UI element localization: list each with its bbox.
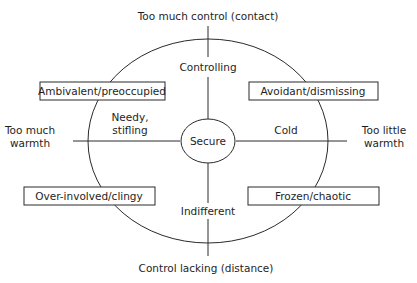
axis-left-label-line1: Too much bbox=[4, 124, 55, 136]
box-over-involved-clingy-label: Over-involved/clingy bbox=[35, 190, 143, 202]
axis-bottom-label: Control lacking (distance) bbox=[139, 262, 274, 274]
axis-right-label-line2: warmth bbox=[364, 137, 404, 149]
axis-top-label: Too much control (contact) bbox=[137, 10, 279, 22]
axis-left-label-line2: warmth bbox=[10, 137, 50, 149]
axis-right-label-line1: Too little bbox=[361, 124, 406, 136]
inner-right-label: Cold bbox=[274, 124, 297, 136]
inner-left-label-line2: stifling bbox=[112, 124, 147, 136]
box-frozen-chaotic-label: Frozen/chaotic bbox=[275, 190, 351, 202]
attachment-diagram: Secure Too much control (contact) Contro… bbox=[0, 0, 417, 283]
inner-left-label-line1: Needy, bbox=[112, 111, 149, 123]
inner-top-label: Controlling bbox=[179, 61, 236, 73]
box-avoidant-dismissing-label: Avoidant/dismissing bbox=[261, 85, 366, 97]
center-label: Secure bbox=[190, 135, 226, 147]
box-ambivalent-preoccupied-label: Ambivalent/preoccupied bbox=[38, 85, 166, 97]
inner-bottom-label: Indifferent bbox=[181, 205, 235, 217]
